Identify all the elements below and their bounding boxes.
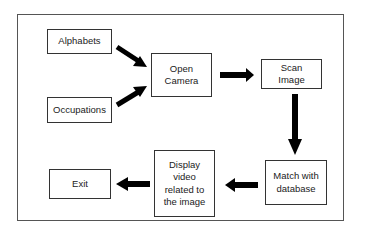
arrow-match-database-to-display-video xyxy=(225,178,258,192)
arrow-display-video-to-exit xyxy=(116,177,150,191)
arrow-scan-image-to-match-database xyxy=(288,94,302,155)
arrow-occupations-to-open-camera xyxy=(117,86,147,105)
arrow-open-camera-to-scan-image xyxy=(220,68,254,82)
arrow-alphabets-to-open-camera xyxy=(117,47,147,67)
arrows-layer xyxy=(0,0,371,246)
